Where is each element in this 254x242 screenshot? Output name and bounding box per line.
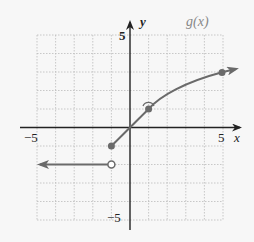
x-max-tick-label: 5 <box>218 130 225 146</box>
points <box>108 69 226 168</box>
y-axis-label: y <box>140 14 146 30</box>
x-axis-label: x <box>234 130 240 146</box>
x-min-tick-label: −5 <box>24 130 38 146</box>
y-min-tick-label: −5 <box>107 210 121 226</box>
function-title: g(x) <box>186 14 209 30</box>
graph-canvas <box>0 0 254 242</box>
y-max-tick-label: 5 <box>119 28 126 44</box>
function-graph <box>40 69 236 165</box>
